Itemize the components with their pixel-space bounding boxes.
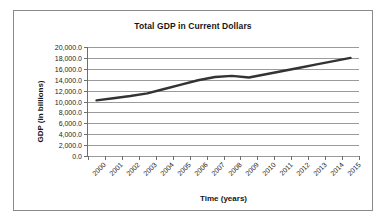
x-axis-tick-label: 2003	[142, 161, 158, 177]
x-axis-tick-label: 2010	[261, 161, 277, 177]
y-axis-tick-label: 20,000.0	[55, 44, 82, 51]
plot-area: 0.02,000.04,000.06,000.08,000.010,000.01…	[88, 47, 359, 156]
y-axis-tick-label: 10,000.0	[55, 98, 82, 105]
x-axis-tick	[308, 156, 309, 160]
x-axis-tick	[257, 156, 258, 160]
x-axis-tick	[122, 156, 123, 160]
y-axis-tick-label: 18,000.0	[55, 54, 82, 61]
x-axis-tick-label: 2009	[244, 161, 260, 177]
x-axis-tick	[88, 156, 89, 160]
x-axis-tick	[190, 156, 191, 160]
x-axis-tick-label: 2015	[346, 161, 362, 177]
x-axis-tick	[325, 156, 326, 160]
y-axis-tick-label: 4,000.0	[59, 131, 82, 138]
y-axis-tick-label: 2,000.0	[59, 142, 82, 149]
y-axis-tick-label: 12,000.0	[55, 87, 82, 94]
y-axis-tick-label: 8,000.0	[59, 109, 82, 116]
x-axis-tick	[224, 156, 225, 160]
x-axis-tick-label: 2007	[210, 161, 226, 177]
x-axis-tick-label: 2012	[295, 161, 311, 177]
chart-title: Total GDP in Current Dollars	[14, 21, 372, 31]
x-axis-tick	[274, 156, 275, 160]
x-axis-tick	[173, 156, 174, 160]
x-axis-tick-label: 2004	[159, 161, 175, 177]
x-axis-tick-label: 2005	[176, 161, 192, 177]
x-axis-tick	[240, 156, 241, 160]
chart-frame: Total GDP in Current Dollars GDP (in bil…	[13, 10, 373, 211]
y-axis-tick-label: 16,000.0	[55, 65, 82, 72]
y-axis-title: GDP (in billions)	[33, 57, 47, 166]
x-axis-tick	[359, 156, 360, 160]
series-line-gdp	[88, 47, 359, 156]
y-axis-tick-label: 14,000.0	[55, 76, 82, 83]
x-axis-tick	[139, 156, 140, 160]
x-axis-tick-label: 2011	[278, 161, 294, 177]
x-axis-tick-label: 2006	[193, 161, 209, 177]
x-axis-title: Time (years)	[88, 194, 359, 203]
x-axis-tick	[291, 156, 292, 160]
x-axis-tick	[156, 156, 157, 160]
x-axis-tick	[207, 156, 208, 160]
y-axis-tick-label: 0.0	[72, 153, 82, 160]
x-axis-tick-label: 2001	[108, 161, 124, 177]
y-axis-title-label: GDP (in billions)	[36, 80, 45, 142]
x-axis-tick	[105, 156, 106, 160]
x-axis-tick-label: 2000	[91, 161, 107, 177]
x-axis-tick-label: 2013	[312, 161, 328, 177]
x-axis-tick-label: 2002	[125, 161, 141, 177]
y-axis-tick-label: 6,000.0	[59, 120, 82, 127]
x-axis-tick-label: 2008	[227, 161, 243, 177]
series-line	[96, 58, 350, 101]
x-axis-tick	[342, 156, 343, 160]
x-axis-tick-label: 2014	[329, 161, 345, 177]
